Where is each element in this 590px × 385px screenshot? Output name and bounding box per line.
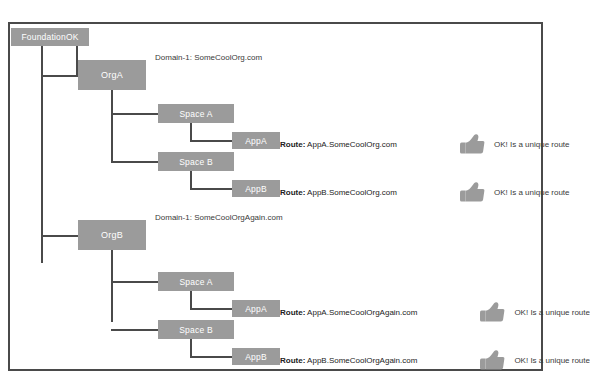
connector-trunk-main bbox=[41, 46, 43, 263]
node-space-a-org-a[interactable]: Space A bbox=[158, 104, 234, 123]
connector-org-b-spine bbox=[111, 250, 113, 322]
node-space-b-org-b[interactable]: Space B bbox=[158, 320, 234, 339]
connector-root-to-org-a bbox=[41, 75, 79, 77]
route-value: AppA.SomeCoolOrg.com bbox=[307, 140, 397, 149]
thumbs-up-icon bbox=[479, 349, 505, 371]
connector-space-a-org-b-to-app bbox=[190, 308, 234, 310]
node-space-b-org-a[interactable]: Space B bbox=[158, 152, 234, 171]
route-value: AppB.SomeCoolOrgAgain.com bbox=[307, 356, 417, 365]
route-value: AppB.SomeCoolOrg.com bbox=[307, 188, 397, 197]
node-app-a-org-a[interactable]: AppA bbox=[232, 132, 280, 149]
thumbs-up-icon bbox=[459, 133, 485, 155]
diagram-frame: FoundationOK OrgA Domain-1: SomeCoolOrg.… bbox=[8, 22, 543, 371]
route-label-app-a-org-b: Route: AppA.SomeCoolOrgAgain.com bbox=[280, 308, 417, 317]
route-status-text: OK! Is a unique route bbox=[514, 308, 590, 317]
connector-root-to-org-b bbox=[41, 235, 79, 237]
connector-space-b-org-a-to-app bbox=[190, 188, 234, 190]
route-row-app-a-org-b: Route: AppA.SomeCoolOrgAgain.com OK! Is … bbox=[280, 301, 590, 323]
connector-org-b-to-space-b bbox=[111, 329, 159, 331]
connector-space-b-org-a-spine bbox=[190, 171, 192, 189]
node-org-a[interactable]: OrgA bbox=[78, 60, 146, 90]
route-key: Route: bbox=[280, 356, 305, 365]
node-app-b-org-a[interactable]: AppB bbox=[232, 180, 280, 197]
route-row-app-b-org-b: Route: AppB.SomeCoolOrgAgain.com OK! Is … bbox=[280, 349, 590, 371]
diagram-canvas: FoundationOK OrgA Domain-1: SomeCoolOrg.… bbox=[10, 24, 541, 369]
route-status-text: OK! Is a unique route bbox=[494, 140, 570, 149]
connector-org-a-to-space-a bbox=[111, 113, 159, 115]
node-app-b-org-b[interactable]: AppB bbox=[232, 348, 280, 365]
route-label-app-a-org-a: Route: AppA.SomeCoolOrg.com bbox=[280, 140, 397, 149]
connector-space-a-org-a-spine bbox=[190, 123, 192, 141]
route-label-app-b-org-a: Route: AppB.SomeCoolOrg.com bbox=[280, 188, 397, 197]
connector-org-a-to-space-b bbox=[111, 161, 159, 163]
connector-space-b-org-b-spine bbox=[190, 339, 192, 357]
domain-label-org-b: Domain-1: SomeCoolOrgAgain.com bbox=[155, 213, 283, 222]
route-row-app-a-org-a: Route: AppA.SomeCoolOrg.com OK! Is a uni… bbox=[280, 133, 570, 155]
domain-label-org-a: Domain-1: SomeCoolOrg.com bbox=[155, 53, 262, 62]
route-key: Route: bbox=[280, 140, 305, 149]
route-key: Route: bbox=[280, 308, 305, 317]
thumbs-up-icon bbox=[459, 181, 485, 203]
node-space-a-org-b[interactable]: Space A bbox=[158, 272, 234, 291]
connector-space-a-org-a-to-app bbox=[190, 140, 234, 142]
route-status-text: OK! Is a unique route bbox=[494, 188, 570, 197]
route-status-text: OK! Is a unique route bbox=[514, 356, 590, 365]
connector-org-a-spine bbox=[111, 90, 113, 162]
node-foundation[interactable]: FoundationOK bbox=[11, 28, 89, 46]
route-key: Route: bbox=[280, 188, 305, 197]
thumbs-up-icon bbox=[479, 301, 505, 323]
connector-space-a-org-b-spine bbox=[190, 291, 192, 309]
node-app-a-org-b[interactable]: AppA bbox=[232, 300, 280, 317]
route-row-app-b-org-a: Route: AppB.SomeCoolOrg.com OK! Is a uni… bbox=[280, 181, 570, 203]
route-value: AppA.SomeCoolOrgAgain.com bbox=[307, 308, 417, 317]
connector-org-b-to-space-a bbox=[111, 281, 159, 283]
route-label-app-b-org-b: Route: AppB.SomeCoolOrgAgain.com bbox=[280, 356, 417, 365]
node-org-b[interactable]: OrgB bbox=[78, 220, 146, 250]
connector-space-b-org-b-to-app bbox=[190, 356, 234, 358]
